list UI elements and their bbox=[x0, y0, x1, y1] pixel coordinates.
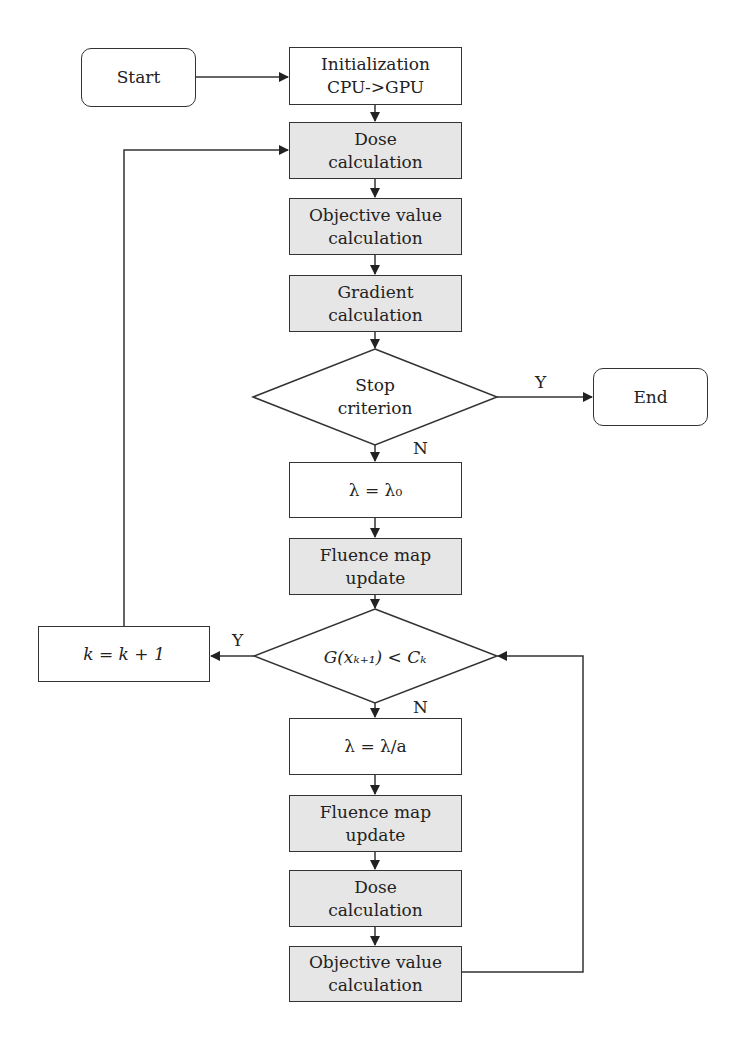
cond-yes-label: Y bbox=[232, 630, 243, 650]
k-increment-step: k = k + 1 bbox=[38, 626, 210, 682]
start-terminal: Start bbox=[81, 48, 196, 107]
objective-calc-label-2: Objective value calculation bbox=[309, 951, 442, 997]
stop-criterion-decision: Stop criterion bbox=[300, 370, 450, 424]
stop-no-label: N bbox=[413, 438, 428, 458]
dose-calc-step-2: Dose calculation bbox=[289, 870, 462, 927]
end-label: End bbox=[633, 386, 667, 409]
start-label: Start bbox=[117, 66, 161, 89]
dose-calc-label-2: Dose calculation bbox=[328, 876, 423, 922]
gradient-calc-step: Gradient calculation bbox=[289, 275, 462, 332]
condition-decision: G(xₖ₊₁) < Cₖ bbox=[290, 643, 460, 671]
objective-calc-step-1: Objective value calculation bbox=[289, 198, 462, 255]
dose-calc-step-1: Dose calculation bbox=[289, 122, 462, 179]
lambda-init-step: λ = λ₀ bbox=[289, 462, 462, 518]
fluence-update-label-1: Fluence map update bbox=[320, 544, 431, 590]
lambda-divide-label: λ = λ/a bbox=[344, 735, 406, 758]
cond-no-label: N bbox=[413, 697, 428, 717]
objective-calc-label-1: Objective value calculation bbox=[309, 204, 442, 250]
dose-calc-label-1: Dose calculation bbox=[328, 128, 423, 174]
fluence-update-label-2: Fluence map update bbox=[320, 801, 431, 847]
k-increment-label: k = k + 1 bbox=[83, 643, 165, 666]
gradient-calc-label: Gradient calculation bbox=[328, 281, 423, 327]
objective-calc-step-2: Objective value calculation bbox=[289, 946, 462, 1002]
fluence-update-step-1: Fluence map update bbox=[289, 538, 462, 595]
end-terminal: End bbox=[593, 368, 708, 426]
lambda-divide-step: λ = λ/a bbox=[289, 718, 462, 775]
init-step: Initialization CPU->GPU bbox=[289, 47, 462, 105]
fluence-update-step-2: Fluence map update bbox=[289, 795, 462, 852]
stop-yes-label: Y bbox=[535, 372, 546, 392]
init-label: Initialization CPU->GPU bbox=[321, 53, 430, 99]
lambda-init-label: λ = λ₀ bbox=[349, 479, 402, 502]
